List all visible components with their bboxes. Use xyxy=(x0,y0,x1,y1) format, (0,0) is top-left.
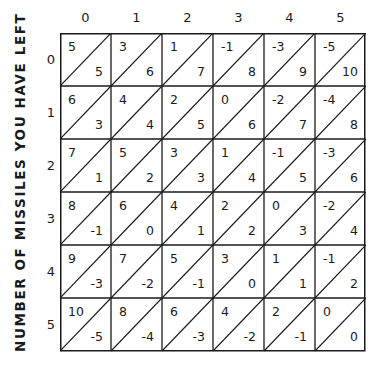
lower-value: 5 xyxy=(299,170,307,185)
grid-cell: 14 xyxy=(213,139,264,192)
lower-value: 6 xyxy=(350,170,358,185)
upper-value: 10 xyxy=(68,304,84,319)
upper-value: 6 xyxy=(119,198,127,213)
upper-value: 1 xyxy=(272,251,280,266)
grid-cell: -39 xyxy=(264,33,315,86)
grid-cell: -510 xyxy=(315,33,366,86)
grid-cell: -24 xyxy=(315,192,366,245)
upper-value: -2 xyxy=(272,92,284,107)
upper-value: 5 xyxy=(68,39,76,54)
column-label: 2 xyxy=(162,10,213,25)
grid-cell: 60 xyxy=(111,192,162,245)
upper-value: 2 xyxy=(272,304,280,319)
lower-value: 0 xyxy=(146,223,154,238)
grid-cell: 10-5 xyxy=(60,298,111,351)
upper-value: 4 xyxy=(119,92,127,107)
row-label: 1 xyxy=(44,86,58,139)
grid-cell: 17 xyxy=(162,33,213,86)
upper-value: 4 xyxy=(170,198,178,213)
upper-value: -5 xyxy=(323,39,335,54)
upper-value: 8 xyxy=(68,198,76,213)
grid-cell: 36 xyxy=(111,33,162,86)
row-label: 5 xyxy=(44,298,58,351)
grid-cell: 9-3 xyxy=(60,245,111,298)
lower-value: 8 xyxy=(350,117,358,132)
grid-cell: 30 xyxy=(213,245,264,298)
upper-value: -4 xyxy=(323,92,335,107)
lower-value: 1 xyxy=(95,170,103,185)
upper-value: -3 xyxy=(272,39,284,54)
lower-value: 5 xyxy=(95,64,103,79)
lower-value: -5 xyxy=(91,329,103,344)
grid-cell: -15 xyxy=(264,139,315,192)
row-label: 0 xyxy=(44,33,58,86)
lower-value: 6 xyxy=(146,64,154,79)
column-label: 0 xyxy=(60,10,111,25)
upper-value: 7 xyxy=(68,145,76,160)
upper-value: 1 xyxy=(170,39,178,54)
grid-cell: -18 xyxy=(213,33,264,86)
upper-value: 2 xyxy=(221,198,229,213)
upper-value: 3 xyxy=(221,251,229,266)
grid-cell: 55 xyxy=(60,33,111,86)
lower-value: -1 xyxy=(91,223,103,238)
lower-value: 3 xyxy=(299,223,307,238)
grid-cell: 6-3 xyxy=(162,298,213,351)
lower-value: 0 xyxy=(350,329,358,344)
lower-value: 2 xyxy=(146,170,154,185)
upper-value: 4 xyxy=(221,304,229,319)
upper-value: -3 xyxy=(323,145,335,160)
grid-cell: 52 xyxy=(111,139,162,192)
grid-cell: -48 xyxy=(315,86,366,139)
lower-value: 2 xyxy=(248,223,256,238)
grid-cell: 00 xyxy=(315,298,366,351)
upper-value: 1 xyxy=(221,145,229,160)
column-label: 5 xyxy=(315,10,366,25)
grid-cell: 11 xyxy=(264,245,315,298)
upper-value: 3 xyxy=(170,145,178,160)
upper-value: 5 xyxy=(170,251,178,266)
lower-value: 1 xyxy=(197,223,205,238)
upper-value: 2 xyxy=(170,92,178,107)
lower-value: 0 xyxy=(248,276,256,291)
upper-value: 7 xyxy=(119,251,127,266)
lower-value: 7 xyxy=(299,117,307,132)
grid-cell: -36 xyxy=(315,139,366,192)
lower-value: 2 xyxy=(350,276,358,291)
upper-value: 0 xyxy=(323,304,331,319)
column-label: 4 xyxy=(264,10,315,25)
upper-value: 3 xyxy=(119,39,127,54)
grid-cell: 44 xyxy=(111,86,162,139)
grid-cell: -27 xyxy=(264,86,315,139)
vertical-axis-title: NUMBER OF MISSILES YOU HAVE LEFT xyxy=(12,32,28,352)
lower-value: 7 xyxy=(197,64,205,79)
lower-value: -3 xyxy=(91,276,103,291)
grid-cell: -12 xyxy=(315,245,366,298)
lower-value: 8 xyxy=(248,64,256,79)
payoff-grid: 553617-18-39-51063442506-27-4871523314-1… xyxy=(60,33,365,351)
upper-value: 5 xyxy=(119,145,127,160)
lower-value: -2 xyxy=(142,276,154,291)
row-label: 2 xyxy=(44,139,58,192)
lower-value: 10 xyxy=(342,64,358,79)
upper-value: -1 xyxy=(272,145,284,160)
upper-value: 6 xyxy=(68,92,76,107)
grid-cell: 2-1 xyxy=(264,298,315,351)
row-label: 3 xyxy=(44,192,58,245)
row-label: 4 xyxy=(44,245,58,298)
lower-value: 3 xyxy=(197,170,205,185)
lower-value: 4 xyxy=(248,170,256,185)
upper-value: -1 xyxy=(221,39,233,54)
lower-value: 6 xyxy=(248,117,256,132)
grid-cell: 8-4 xyxy=(111,298,162,351)
column-label: 3 xyxy=(213,10,264,25)
column-label: 1 xyxy=(111,10,162,25)
grid-cell: 25 xyxy=(162,86,213,139)
upper-value: 0 xyxy=(221,92,229,107)
lower-value: 5 xyxy=(197,117,205,132)
upper-value: -1 xyxy=(323,251,335,266)
lower-value: 4 xyxy=(146,117,154,132)
lower-value: 3 xyxy=(95,117,103,132)
lower-value: -3 xyxy=(193,329,205,344)
upper-value: 8 xyxy=(119,304,127,319)
